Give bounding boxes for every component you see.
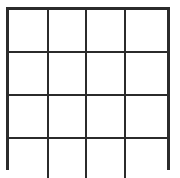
grid-cell[interactable]: [87, 139, 126, 178]
grid-cell[interactable]: [9, 96, 49, 137]
grid-cell[interactable]: [9, 53, 49, 94]
grid-cell[interactable]: [126, 10, 167, 51]
grid-row: [9, 139, 167, 178]
grid-cell[interactable]: [49, 53, 88, 94]
image-canvas: [0, 0, 180, 178]
grid-cell[interactable]: [49, 139, 88, 178]
grid-cell[interactable]: [126, 96, 167, 137]
grid-cell[interactable]: [9, 139, 49, 178]
grid-row: [9, 53, 167, 96]
grid-cell[interactable]: [87, 10, 126, 51]
grid-cell[interactable]: [126, 53, 167, 94]
grid-row: [9, 10, 167, 53]
grid-row: [9, 96, 167, 139]
grid-cell[interactable]: [9, 10, 49, 51]
grid-cell[interactable]: [49, 96, 88, 137]
grid-cell[interactable]: [87, 96, 126, 137]
grid-cell[interactable]: [126, 139, 167, 178]
grid-cell[interactable]: [87, 53, 126, 94]
grid-cell[interactable]: [49, 10, 88, 51]
grid-figure: [6, 7, 170, 170]
